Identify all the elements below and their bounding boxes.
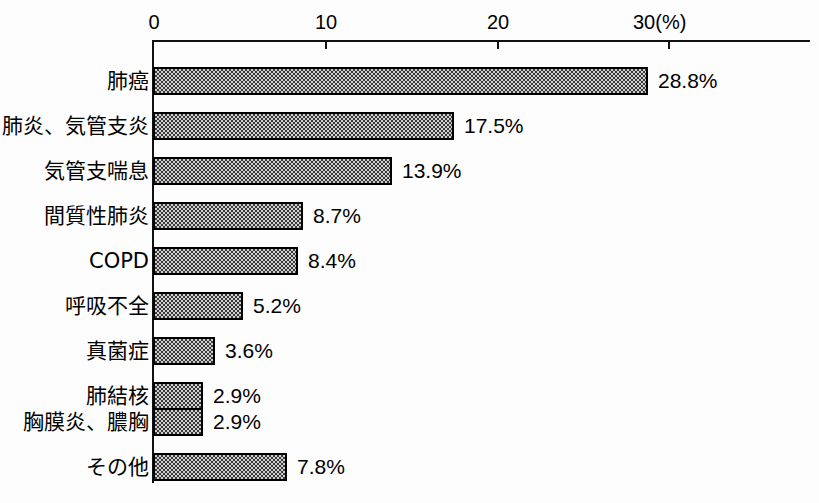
bar-row: 気管支喘息 13.9% (0, 157, 819, 185)
bar (153, 157, 392, 185)
bar-value-label: 2.9% (213, 411, 261, 433)
x-tick-label-30: 30(%) (633, 12, 686, 32)
x-tick-label-0: 0 (148, 12, 159, 32)
bar (153, 202, 303, 230)
category-label: COPD (89, 249, 149, 273)
bar-value-label: 8.4% (308, 250, 356, 272)
bar-row: 呼吸不全 5.2% (0, 292, 819, 320)
bar-chart: 0 10 20 30(%) 肺癌 28.8% 肺炎、気管支炎 17.5% 気管支… (0, 0, 819, 503)
bar (153, 337, 215, 365)
category-label: 真菌症 (86, 339, 149, 363)
category-label: 間質性肺炎 (44, 204, 149, 228)
x-tick-label-10: 10 (315, 12, 337, 32)
bar-row: 肺結核 2.9% (0, 382, 819, 410)
bar-value-label: 7.8% (297, 456, 345, 478)
bar-row: 真菌症 3.6% (0, 337, 819, 365)
bar (153, 408, 203, 436)
category-label: 胸膜炎、膿胸 (23, 410, 149, 434)
category-label: 気管支喘息 (44, 159, 149, 183)
x-axis-line (152, 40, 810, 42)
bar-value-label: 13.9% (402, 160, 462, 182)
bar-row: その他 7.8% (0, 453, 819, 481)
bar (153, 453, 287, 481)
category-label: 肺癌 (107, 69, 149, 93)
bar-row: 胸膜炎、膿胸 2.9% (0, 408, 819, 436)
x-tick-30 (668, 40, 670, 49)
bar-value-label: 8.7% (313, 205, 361, 227)
x-tick-label-30-number: 30 (633, 11, 655, 33)
x-tick-10 (325, 40, 327, 49)
x-tick-20 (497, 40, 499, 49)
bar-row: COPD 8.4% (0, 247, 819, 275)
category-label: その他 (86, 455, 149, 479)
x-tick-label-20: 20 (487, 12, 509, 32)
x-axis-unit-label: (%) (655, 11, 686, 33)
bar-row: 肺癌 28.8% (0, 67, 819, 95)
category-label: 肺結核 (86, 384, 149, 408)
bar-value-label: 3.6% (225, 340, 273, 362)
bar (153, 382, 203, 410)
category-label: 肺炎、気管支炎 (2, 114, 149, 138)
bar (153, 67, 648, 95)
bar-row: 間質性肺炎 8.7% (0, 202, 819, 230)
bar-value-label: 28.8% (658, 70, 718, 92)
bar (153, 112, 454, 140)
bar (153, 247, 298, 275)
category-label: 呼吸不全 (65, 294, 149, 318)
x-tick-0 (152, 40, 154, 49)
bar-value-label: 2.9% (213, 385, 261, 407)
bar-row: 肺炎、気管支炎 17.5% (0, 112, 819, 140)
bar-value-label: 17.5% (464, 115, 524, 137)
bar (153, 292, 243, 320)
bar-value-label: 5.2% (253, 295, 301, 317)
